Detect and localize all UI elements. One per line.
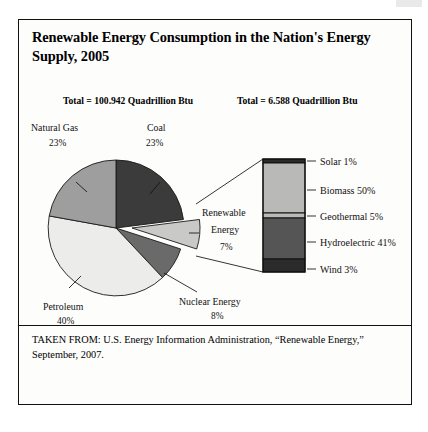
pie-label-nuclear: Nuclear Energy (179, 296, 241, 307)
stacked-bar (263, 159, 305, 272)
pie-pct-renewable: 7% (220, 242, 233, 252)
source-citation: TAKEN FROM: U.S. Energy Information Admi… (32, 333, 392, 362)
bar-label-biomass: Biomass 50% (320, 185, 375, 196)
pie-label-renewable-line2: Energy (211, 224, 239, 235)
leader-nuclear (164, 273, 197, 292)
bar-segment-wind (263, 259, 305, 272)
pie-label-coal: Coal (147, 122, 166, 133)
pie-pct-coal: 23% (146, 138, 163, 148)
bar-label-solar: Solar 1% (320, 156, 357, 167)
scan-artifact (396, 0, 422, 7)
figure-frame: Renewable Energy Consumption in the Nati… (18, 19, 412, 405)
callout-bottom (196, 256, 263, 272)
pie-slice-natural-gas (49, 160, 116, 228)
bar-segment-biomass (263, 163, 305, 213)
pie-pct-natural-gas: 23% (49, 138, 66, 148)
bar-label-wind: Wind 3% (320, 264, 358, 275)
bar-segment-hydroelectric (263, 218, 305, 259)
callout-top (196, 159, 263, 204)
citation-divider (19, 325, 411, 326)
pie-label-petroleum: Petroleum (43, 301, 84, 312)
bar-segment-geothermal (263, 213, 305, 218)
pie-pct-nuclear: 8% (211, 311, 224, 321)
bar-label-hydroelectric: Hydroelectric 41% (320, 237, 396, 248)
pie-label-renewable-line1: Renewable (202, 207, 246, 218)
pie-slice-coal (116, 160, 183, 228)
bar-label-geothermal: Geothermal 5% (320, 211, 383, 222)
bar-segment-solar (263, 159, 305, 163)
pie-label-natural-gas: Natural Gas (31, 122, 78, 133)
